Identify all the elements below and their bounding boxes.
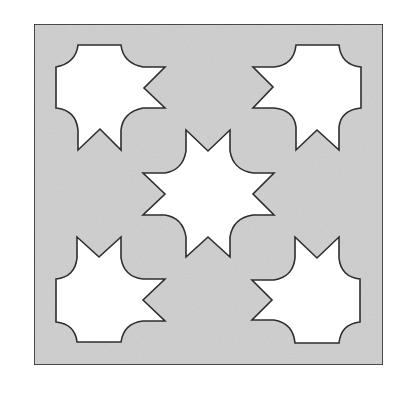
tile-pattern-diagram — [0, 0, 409, 393]
